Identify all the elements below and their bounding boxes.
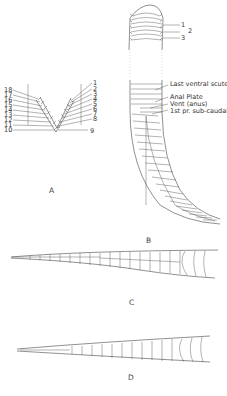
annotation-last-ventral: Last ventral scute — [170, 80, 227, 88]
caption-b: B — [146, 236, 151, 245]
caption-a: A — [49, 186, 55, 195]
label-b-3: 3 — [181, 34, 185, 42]
panel-d: D — [17, 336, 210, 382]
label-8: 8 — [93, 115, 97, 123]
panel-a: 18 17 16 15 14 13 12 11 10 1 2 3 4 5 6 7… — [4, 79, 97, 195]
right-leaders — [58, 83, 92, 130]
label-b-1: 1 — [181, 21, 185, 29]
caption-d: D — [128, 373, 134, 382]
label-10: 10 — [4, 126, 12, 134]
panel-c: C — [11, 250, 218, 307]
caption-c: C — [129, 298, 134, 307]
label-9: 9 — [90, 127, 94, 135]
annotation-subcaudals: 1st pr. sub-caudals — [170, 107, 227, 115]
label-b-2: 2 — [188, 27, 192, 35]
panel-b: 1 2 3 Last ventral scute Anal Plate Vent… — [129, 5, 227, 245]
scale-diagram: 18 17 16 15 14 13 12 11 10 1 2 3 4 5 6 7… — [0, 0, 227, 396]
left-leaders — [13, 90, 55, 130]
